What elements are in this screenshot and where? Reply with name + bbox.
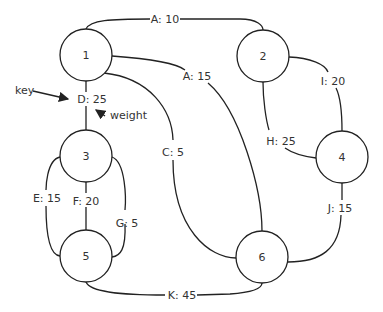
edge-label-a10: A: 10: [151, 13, 180, 26]
node-label-1: 1: [83, 49, 90, 62]
edge-label-c5: C: 5: [162, 146, 184, 159]
key-annotation: key: [15, 84, 35, 97]
edge-label-d25: D: 25: [77, 93, 107, 106]
edge-label-k45: K: 45: [168, 289, 196, 302]
edge-label-e15: E: 15: [33, 192, 61, 205]
key-arrow: [33, 91, 68, 99]
node-label-2: 2: [260, 50, 267, 63]
graph-diagram: 123456 A: 10 A: 15 D: 25 C: 5 I: 20 H: 2…: [0, 0, 383, 312]
edge-label-i20: I: 20: [321, 75, 345, 88]
edge-label-h25: H: 25: [266, 135, 295, 148]
graph-svg: 123456 A: 10 A: 15 D: 25 C: 5 I: 20 H: 2…: [0, 0, 383, 312]
nodes: 123456: [60, 29, 368, 283]
weight-annotation: weight: [110, 109, 148, 122]
edge-i20: [289, 57, 342, 131]
node-label-6: 6: [259, 251, 266, 264]
edge-j15: [288, 183, 342, 262]
node-label-4: 4: [339, 151, 346, 164]
edge-label-g5: G: 5: [116, 217, 139, 230]
node-label-3: 3: [83, 150, 90, 163]
edge-label-f20: F: 20: [73, 195, 100, 208]
edge-c5: [104, 73, 173, 140]
node-label-5: 5: [83, 250, 90, 263]
edge-a15: [112, 56, 185, 70]
edge-g5: [112, 157, 125, 257]
edge-label-j15: J: 15: [327, 202, 352, 215]
edge-e15: [46, 157, 60, 256]
edge-label-a15: A: 15: [183, 70, 212, 83]
weight-arrow: [96, 110, 105, 116]
